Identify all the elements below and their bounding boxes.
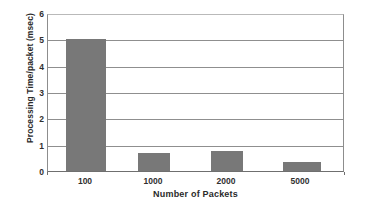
bar-5000 (283, 162, 321, 171)
x-axis-title: Number of Packets (47, 189, 344, 199)
bar-1000 (138, 153, 170, 171)
y-tick-label-2: 2 (28, 114, 44, 124)
y-tick-label-6: 6 (28, 9, 44, 19)
y-tick-label-3: 3 (28, 88, 44, 98)
y-axis-tick-labels: 6 5 4 3 2 1 0 (26, 0, 44, 205)
x-tick-label-100: 100 (78, 176, 92, 186)
y-tick-label-0: 0 (28, 167, 44, 177)
plot-area (47, 14, 344, 172)
x-tick-label-5000: 5000 (291, 176, 310, 186)
x-tick-mark-left (47, 172, 48, 175)
x-tick-mark-right (344, 172, 345, 175)
y-tick-label-4: 4 (28, 62, 44, 72)
x-tick-label-1000: 1000 (144, 176, 163, 186)
bar-100 (66, 39, 106, 171)
y-tick-label-5: 5 (28, 35, 44, 45)
bar-chart: Processing Time/packet (msec) 6 5 4 3 2 … (0, 0, 365, 205)
bar-2000 (211, 151, 243, 172)
x-tick-label-2000: 2000 (217, 176, 236, 186)
y-tick-label-1: 1 (28, 141, 44, 151)
